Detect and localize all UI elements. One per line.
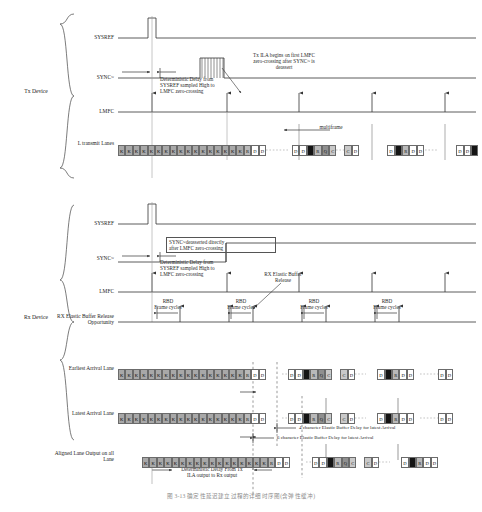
char-cell: K <box>118 413 125 424</box>
rbd-label-1: RBD Frame cycles <box>140 298 196 310</box>
char-cell: K <box>199 145 206 156</box>
char-cell: D <box>275 457 282 468</box>
char-cell: D <box>401 457 408 468</box>
char-cell: C <box>325 369 332 380</box>
char-cell <box>303 413 310 424</box>
char-cell: K <box>185 369 192 380</box>
char-cell: C <box>344 145 351 156</box>
char-cell: D <box>295 369 302 380</box>
rx-signal-lmfc: LMFC <box>62 288 114 294</box>
rx-signal-elastic-buffer: RX Elastic Buffer Release Opportunity <box>44 313 114 326</box>
char-cell: K <box>222 369 229 380</box>
char-cell: D <box>292 145 299 156</box>
char-cell: D <box>407 369 414 380</box>
char-cell: K <box>118 369 125 380</box>
char-cell: R <box>392 369 399 380</box>
char-cell: K <box>231 457 238 468</box>
char-cell: K <box>236 413 243 424</box>
char-cell: D <box>387 145 394 156</box>
char-cell: D <box>348 413 355 424</box>
char-cell: K <box>179 457 186 468</box>
tx-signal-lmfc: LMFC <box>62 108 114 114</box>
char-cell: D <box>407 413 414 424</box>
char-cell: D <box>417 145 424 156</box>
char-cell: K <box>155 369 162 380</box>
char-cell: K <box>177 413 184 424</box>
char-cell: D <box>251 369 258 380</box>
char-cell: D <box>438 413 445 424</box>
char-cell: K <box>155 145 162 156</box>
char-cell: K <box>192 369 199 380</box>
char-cell: K <box>216 457 223 468</box>
char-cell: K <box>170 369 177 380</box>
char-cell: K <box>222 145 229 156</box>
rbd-label-4: RBD Frame cycles <box>359 298 415 310</box>
char-cell: R <box>244 369 251 380</box>
char-cell: D <box>464 145 471 156</box>
char-cell: K <box>214 413 221 424</box>
char-cell: D <box>288 413 295 424</box>
char-cell: K <box>148 369 155 380</box>
char-cell: K <box>199 413 206 424</box>
char-cell: R <box>244 413 251 424</box>
char-cell: K <box>125 145 132 156</box>
char-cell: K <box>133 413 140 424</box>
delay-note-4char: 4 character Elastic Buffer Delay for lat… <box>299 425 479 431</box>
char-cell: K <box>194 457 201 468</box>
tx-signal-sysref: SYSREF <box>62 34 114 40</box>
char-cell <box>395 145 402 156</box>
char-cell: K <box>260 457 267 468</box>
figure-caption: 图 3-13 确定性延迟建立过程的详细时序图(含弹性缓冲) <box>61 492 421 500</box>
char-cell: K <box>236 369 243 380</box>
char-cell <box>307 145 314 156</box>
char-cell: K <box>229 145 236 156</box>
char-cell: K <box>246 457 253 468</box>
char-cell: C <box>340 369 347 380</box>
char-cell: K <box>140 413 147 424</box>
char-cell: K <box>148 145 155 156</box>
char-cell: K <box>140 369 147 380</box>
char-cell: R <box>310 369 317 380</box>
char-cell: D <box>431 457 438 468</box>
timing-diagram-canvas: Tx Device Rx Device SYSREF SYNC~ LMFC L … <box>0 0 482 512</box>
char-cell: D <box>438 369 445 380</box>
rx-deterministic-delay-note: Deterministic Delay from SYSREF sampled … <box>160 259 252 278</box>
char-cell: D <box>423 457 430 468</box>
char-cell: K <box>125 413 132 424</box>
char-cell: D <box>288 369 295 380</box>
char-cell <box>303 369 310 380</box>
char-cell: D <box>259 369 266 380</box>
char-cell: R <box>392 413 399 424</box>
char-cell: R <box>334 457 341 468</box>
char-cell: D <box>372 457 379 468</box>
tx-device-label: Tx Device <box>14 88 58 95</box>
char-cell <box>327 457 334 468</box>
char-cell: C <box>329 145 336 156</box>
char-cell: K <box>170 413 177 424</box>
char-cell: K <box>192 145 199 156</box>
char-cell: C <box>325 413 332 424</box>
char-cell: K <box>223 457 230 468</box>
char-cell: K <box>207 369 214 380</box>
char-cell: Q <box>318 413 325 424</box>
char-cell: K <box>214 145 221 156</box>
char-cell: R <box>310 413 317 424</box>
delay-note-6char: 6 character Elastic Buffer Delay for lat… <box>277 435 467 441</box>
char-cell: K <box>222 413 229 424</box>
char-cell: K <box>170 145 177 156</box>
rx-signal-sysref: SYSREF <box>62 220 114 226</box>
char-cell: K <box>177 369 184 380</box>
char-cell: K <box>185 145 192 156</box>
char-cell: R <box>244 145 251 156</box>
char-cell: K <box>214 369 221 380</box>
char-cell: K <box>207 145 214 156</box>
char-cell: C <box>349 457 356 468</box>
tx-signal-sync: SYNC~ <box>62 74 114 80</box>
char-cell: D <box>409 145 416 156</box>
char-cell: D <box>446 413 453 424</box>
char-cell: K <box>133 145 140 156</box>
char-cell: D <box>399 413 406 424</box>
char-cell: K <box>207 413 214 424</box>
char-cell: K <box>192 413 199 424</box>
char-cell: D <box>348 369 355 380</box>
